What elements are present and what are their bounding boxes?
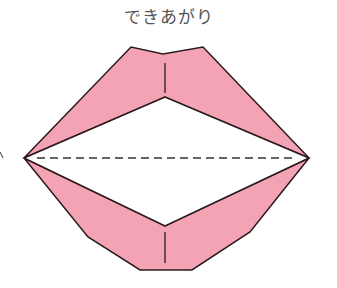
left-edge-mark (0, 152, 3, 158)
lips-diagram (0, 0, 337, 288)
